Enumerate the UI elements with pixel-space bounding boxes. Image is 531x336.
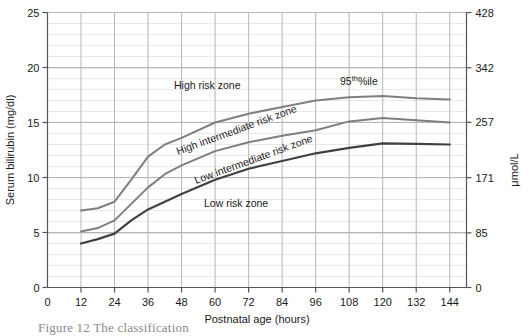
x-tick-label: 108: [340, 296, 358, 308]
y-axis-left-title: Serum bilirubin (mg/dl): [4, 95, 16, 206]
y-left-tick-label: 20: [27, 62, 39, 74]
figure-caption: Figure 12 The classification: [38, 320, 189, 336]
annotation-high-risk-zone: High risk zone: [174, 79, 241, 91]
x-tick-label: 60: [209, 296, 221, 308]
x-axis: 01224364860728496108120132144: [44, 288, 458, 308]
x-tick-label: 12: [75, 296, 87, 308]
x-tick-label: 24: [108, 296, 120, 308]
axis-frame: [48, 13, 467, 288]
y-right-tick-label: 257: [476, 116, 494, 128]
percentile-suffix: %ile: [358, 75, 378, 87]
y-right-tick-label: 85: [476, 227, 488, 239]
y-right-tick-label: 342: [476, 62, 494, 74]
y-axis-right-title: μmol/L: [508, 153, 520, 186]
y-axis-left: 0510152025: [27, 7, 47, 294]
y-left-tick-label: 5: [33, 227, 39, 239]
y-axis-right: 085171257342428: [467, 7, 494, 294]
x-tick-label: 0: [44, 296, 50, 308]
x-tick-label: 144: [441, 296, 459, 308]
x-tick-label: 96: [310, 296, 322, 308]
annotation-low-risk-zone: Low risk zone: [204, 197, 268, 209]
y-right-tick-label: 171: [476, 172, 494, 184]
y-left-tick-label: 0: [33, 282, 39, 294]
y-left-tick-label: 25: [27, 7, 39, 19]
percentile-base: 95: [340, 75, 352, 87]
x-tick-label: 36: [142, 296, 154, 308]
minor-horizontal-gridlines: [48, 24, 467, 277]
percentile-text: 95th%ile: [340, 74, 378, 87]
x-tick-label: 132: [407, 296, 425, 308]
y-left-tick-label: 15: [27, 117, 39, 129]
x-axis-title: Postnatal age (hours): [204, 313, 309, 325]
curve-high-intermediate: [81, 118, 450, 231]
percentile-label: 95th%ile: [340, 74, 378, 87]
x-tick-label: 72: [242, 296, 254, 308]
y-right-tick-label: 0: [476, 282, 482, 294]
x-tick-label: 48: [175, 296, 187, 308]
y-left-tick-label: 10: [27, 172, 39, 184]
x-tick-label: 120: [374, 296, 392, 308]
y-right-tick-label: 428: [476, 7, 494, 19]
x-tick-label: 84: [276, 296, 288, 308]
